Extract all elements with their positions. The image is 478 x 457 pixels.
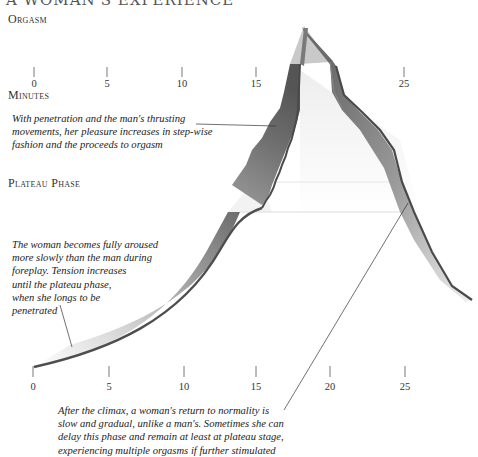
- arousal-annotation: The woman becomes fully aroused more slo…: [12, 238, 192, 317]
- bottom-axis-ticks: [33, 366, 405, 377]
- top-axis-label-10: 10: [170, 78, 194, 89]
- top-axis-ticks: [34, 67, 404, 77]
- bottom-axis-label-10: 10: [172, 381, 196, 392]
- top-axis-label-5: 5: [95, 78, 119, 89]
- orgasm-peak-face: [290, 26, 330, 64]
- bottom-axis-label-5: 5: [97, 381, 121, 392]
- orgasm-label: Orgasm: [8, 12, 47, 27]
- penetration-annotation: With penetration and the man's thrusting…: [12, 112, 252, 152]
- minutes-label: Minutes: [8, 88, 49, 103]
- bottom-axis-label-0: 0: [21, 381, 45, 392]
- bottom-axis-label-20: 20: [318, 381, 342, 392]
- plateau-phase-label: Plateau Phase: [8, 176, 80, 191]
- after-climax-pointer: [284, 203, 408, 410]
- bottom-axis-label-25: 25: [393, 381, 417, 392]
- top-axis-label-25: 25: [392, 78, 416, 89]
- after-climax-annotation: After the climax, a woman's return to no…: [58, 404, 358, 457]
- top-axis-label-15: 15: [244, 78, 268, 89]
- bottom-axis-label-15: 15: [244, 381, 268, 392]
